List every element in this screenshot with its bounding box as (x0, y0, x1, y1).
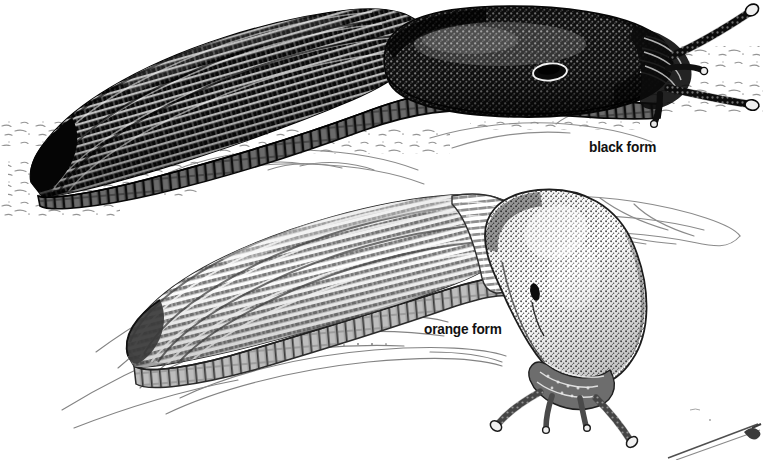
slug-illustration-svg (0, 0, 763, 460)
illustration-plate: black form orange form (0, 0, 763, 460)
label-black-form: black form (589, 138, 656, 156)
label-orange-form: orange form (424, 320, 502, 338)
